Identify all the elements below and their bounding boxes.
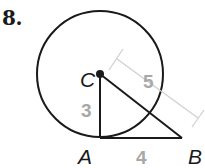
length-cb: 5 (143, 71, 154, 92)
label-c: C (80, 68, 96, 91)
segment-cb (100, 74, 182, 138)
label-a: A (76, 145, 92, 168)
tangent-circle-figure: C A B 3 4 5 (0, 0, 205, 168)
label-b: B (188, 145, 202, 168)
dimension-line-cb (109, 49, 204, 127)
length-ca: 3 (81, 100, 92, 121)
center-point-c (96, 70, 104, 78)
length-ab: 4 (136, 147, 147, 168)
